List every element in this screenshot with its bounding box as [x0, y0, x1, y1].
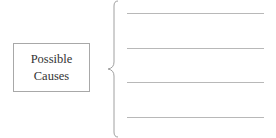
cause-diagram: Possible Causes	[0, 0, 276, 138]
box-label-line1: Possible	[31, 51, 73, 68]
blank-line-3	[127, 82, 264, 83]
blank-line-4	[127, 117, 264, 118]
possible-causes-box: Possible Causes	[13, 43, 90, 92]
blank-line-2	[127, 48, 264, 49]
curly-brace-icon	[104, 0, 120, 138]
box-label-line2: Causes	[34, 68, 69, 85]
blank-line-1	[127, 13, 264, 14]
